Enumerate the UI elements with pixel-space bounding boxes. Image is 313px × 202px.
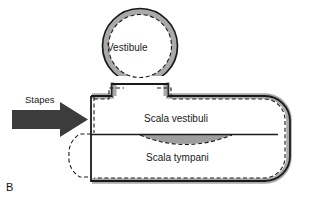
stapes-arrow-shape xyxy=(12,102,88,137)
panel-label: B xyxy=(6,182,13,193)
stapes-arrow xyxy=(12,102,88,137)
round-window-dashed xyxy=(69,134,91,177)
label-stapes: Stapes xyxy=(25,95,55,105)
label-vestibule: Vestibule xyxy=(107,43,148,53)
figure-root: Vestibule Scala vestibuli Scala tympani … xyxy=(0,0,313,202)
label-scala-vestibuli: Scala vestibuli xyxy=(144,114,208,124)
label-scala-tympani: Scala tympani xyxy=(146,153,209,163)
cochlear-duct-inner-dashed xyxy=(94,88,285,178)
